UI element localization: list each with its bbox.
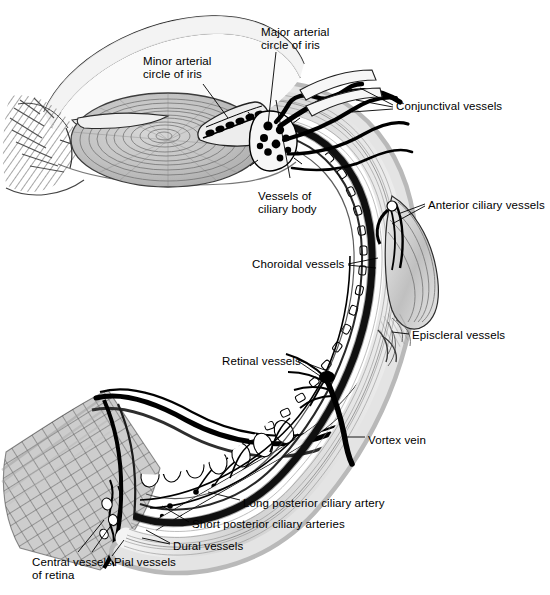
label-choroidal-vessels: Choroidal vessels [252, 258, 344, 271]
figure-canvas: Minor arterial circle of iris Major arte… [0, 0, 550, 595]
label-conjunctival-vessels: Conjunctival vessels [396, 100, 502, 113]
label-retinal-vessels: Retinal vessels [222, 355, 301, 368]
label-pial-vessels: Pial vessels [114, 556, 176, 569]
label-vessels-of-ciliary-body: Vessels of ciliary body [258, 190, 317, 216]
label-major-arterial-circle-of-iris: Major arterial circle of iris [261, 26, 330, 52]
label-episcleral-vessels: Episcleral vessels [412, 329, 505, 342]
label-anterior-ciliary-vessels: Anterior ciliary vessels [428, 199, 545, 212]
label-vortex-vein: Vortex vein [368, 434, 426, 447]
label-long-posterior-ciliary-artery: Long posterior ciliary artery [243, 497, 385, 510]
label-central-vessels-of-retina: Central vessels of retina [32, 556, 112, 582]
label-short-posterior-ciliary-arteries: Short posterior ciliary arteries [192, 518, 345, 531]
label-minor-arterial-circle-of-iris: Minor arterial circle of iris [143, 55, 212, 81]
label-dural-vessels: Dural vessels [173, 540, 243, 553]
